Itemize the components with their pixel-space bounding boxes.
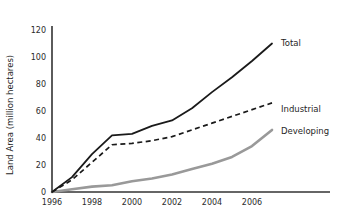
x-tick-label-2006: 2006 [242,198,262,207]
y-tick-label-120: 120 [31,26,46,35]
x-tick-label-2004: 2004 [202,198,222,207]
y-tick-label-40: 40 [36,134,46,143]
y-axis-title: Land Area (million hectares) [5,55,15,175]
x-tick-label-1998: 1998 [82,198,102,207]
y-tick-label-20: 20 [36,161,46,170]
x-tick-label-2000: 2000 [122,198,142,207]
series-label-industrial: Industrial [281,104,321,114]
y-tick-label-100: 100 [31,53,46,62]
line-chart: Land Area (million hectares) 120 100 80 … [0,0,351,222]
x-tick-label-1996: 1996 [42,198,62,207]
y-tick-label-0: 0 [41,188,46,197]
y-tick-label-60: 60 [36,107,46,116]
series-label-developing: Developing [281,126,329,136]
x-tick-label-2002: 2002 [162,198,182,207]
y-tick-label-80: 80 [36,80,46,89]
series-label-total: Total [280,38,301,48]
